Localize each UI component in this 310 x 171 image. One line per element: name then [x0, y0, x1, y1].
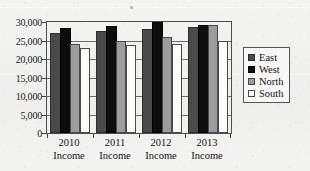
- x-axis-labels: 2010Income2011Income2012Income2013Income: [46, 137, 232, 169]
- bar-group: [47, 22, 93, 133]
- x-axis-label-metric: Income: [184, 150, 230, 163]
- bars-layer: [47, 22, 231, 133]
- legend-item-label: South: [259, 88, 284, 99]
- bar-south-2012: [172, 44, 182, 133]
- legend-swatch-icon: [248, 78, 255, 85]
- legend-swatch-icon: [248, 90, 255, 97]
- x-axis-label-year: 2011: [92, 137, 138, 150]
- bar-south-2013: [218, 41, 228, 134]
- y-axis-tick-label: 0: [0, 128, 42, 139]
- x-axis-label-year: 2012: [138, 137, 184, 150]
- legend-item-east[interactable]: East: [248, 51, 284, 63]
- bar-south-2011: [126, 45, 136, 133]
- x-axis-label-year: 2013: [184, 137, 230, 150]
- chart-legend: EastWestNorthSouth: [243, 47, 290, 103]
- x-axis-label-metric: Income: [46, 150, 92, 163]
- y-axis-tick-label: 25,000: [0, 35, 42, 46]
- y-axis-tick-label: 5,000: [0, 109, 42, 120]
- x-axis-label-metric: Income: [92, 150, 138, 163]
- y-axis-tick-label: 30,000: [0, 17, 42, 28]
- bar-group: [185, 22, 231, 133]
- bar-group: [139, 22, 185, 133]
- legend-item-label: West: [259, 64, 280, 75]
- bar-south-2010: [80, 48, 90, 133]
- x-axis-label: 2012Income: [138, 137, 184, 162]
- legend-swatch-icon: [248, 54, 255, 61]
- x-axis-label: 2013Income: [184, 137, 230, 162]
- x-axis-label-year: 2010: [46, 137, 92, 150]
- legend-item-west[interactable]: West: [248, 63, 284, 75]
- bar-group: [93, 22, 139, 133]
- legend-swatch-icon: [248, 66, 255, 73]
- y-axis-tick-label: 20,000: [0, 54, 42, 65]
- legend-item-south[interactable]: South: [248, 87, 284, 99]
- y-axis-labels: 05,00010,00015,00020,00025,00030,000: [0, 0, 42, 171]
- y-axis-tick-label: 10,000: [0, 91, 42, 102]
- x-axis-label: 2010Income: [46, 137, 92, 162]
- legend-item-north[interactable]: North: [248, 75, 284, 87]
- bar-chart: 05,00010,00015,00020,00025,00030,000 201…: [0, 0, 310, 171]
- legend-item-label: North: [259, 76, 284, 87]
- legend-item-label: East: [259, 52, 277, 63]
- y-axis-tick-label: 15,000: [0, 72, 42, 83]
- x-axis-label: 2011Income: [92, 137, 138, 162]
- x-axis-label-metric: Income: [138, 150, 184, 163]
